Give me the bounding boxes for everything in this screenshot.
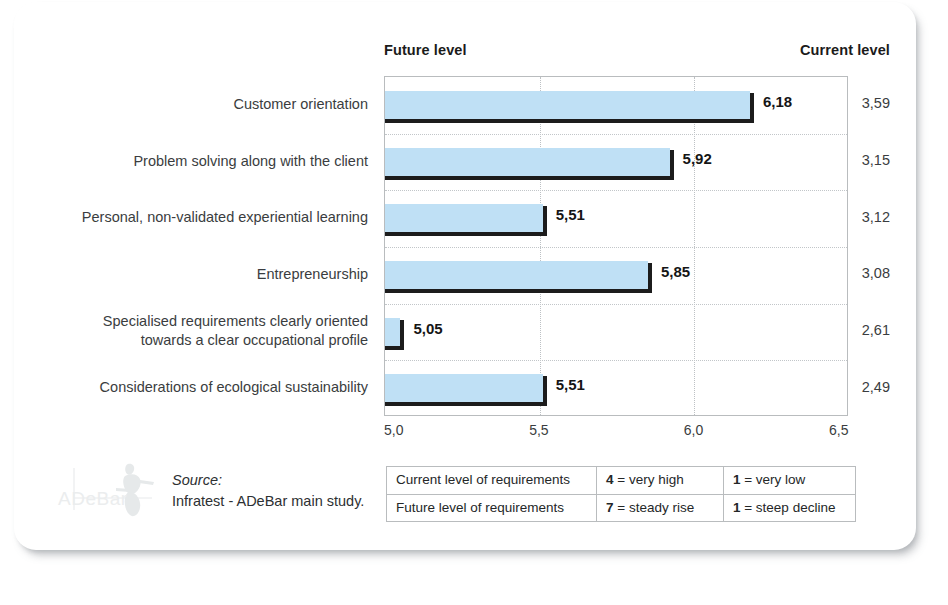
- legend-low-value: 1 = very low: [723, 467, 855, 495]
- legend-high-value: 4 = very high: [597, 467, 724, 495]
- bar-fill: [385, 374, 543, 402]
- bar-fill: [385, 318, 400, 346]
- bar-future-level: [385, 318, 400, 346]
- category-label: Entrepreneurship: [18, 265, 368, 284]
- bar-shadow-right: [750, 93, 754, 123]
- category-label: Personal, non-validated experiential lea…: [18, 208, 368, 227]
- bar-value-label: 5,05: [413, 321, 442, 336]
- bar-value-label: 5,85: [661, 264, 690, 279]
- legend-row-label: Future level of requirements: [387, 494, 597, 522]
- bar-value-label: 5,51: [556, 207, 585, 222]
- current-level-value: 3,15: [800, 152, 890, 168]
- chart-figure: Future level Current level 6,185,925,515…: [0, 0, 948, 605]
- x-axis-tick-label: 6,0: [684, 422, 703, 438]
- bar-value-label: 5,92: [683, 151, 712, 166]
- bar-future-level: [385, 374, 543, 402]
- bar-shadow-bottom: [385, 119, 750, 123]
- legend-row-label: Current level of requirements: [387, 467, 597, 495]
- legend-row: Current level of requirements4 = very hi…: [387, 467, 856, 495]
- bar-shadow-right: [670, 150, 674, 180]
- category-label: Problem solving along with the client: [18, 152, 368, 171]
- current-level-value: 3,12: [800, 209, 890, 225]
- bar-future-level: [385, 204, 543, 232]
- chart-row: 6,18: [385, 77, 847, 134]
- bar-fill: [385, 148, 670, 176]
- chart-row: 5,85: [385, 247, 847, 304]
- bar-future-level: [385, 261, 648, 289]
- chart-row: 5,51: [385, 360, 847, 417]
- bar-future-level: [385, 148, 670, 176]
- chart-row: 5,92: [385, 134, 847, 191]
- bar-fill: [385, 91, 750, 119]
- x-axis-tick-label: 6,5: [829, 422, 848, 438]
- bar-shadow-right: [400, 320, 404, 350]
- bar-value-label: 5,51: [556, 377, 585, 392]
- x-axis-tick-label: 5,5: [529, 422, 548, 438]
- category-label: Specialised requirements clearly oriente…: [18, 312, 368, 350]
- category-label: Considerations of ecological sustainabil…: [18, 378, 368, 397]
- bar-shadow-right: [648, 263, 652, 293]
- source-label: Source:: [172, 470, 364, 491]
- current-level-value: 2,49: [800, 379, 890, 395]
- bar-shadow-right: [543, 376, 547, 406]
- legend-high-value: 7 = steady rise: [597, 494, 724, 522]
- bar-fill: [385, 204, 543, 232]
- bar-shadow-bottom: [385, 232, 543, 236]
- category-label: Customer orientation: [18, 95, 368, 114]
- bar-shadow-bottom: [385, 346, 400, 350]
- source-text: Infratest - ADeBar main study.: [172, 491, 364, 512]
- current-level-header: Current level: [0, 42, 890, 58]
- legend-row: Future level of requirements7 = steady r…: [387, 494, 856, 522]
- bar-shadow-bottom: [385, 402, 543, 406]
- svg-text:ADeBar: ADeBar: [58, 488, 128, 509]
- chart-row: 5,05: [385, 304, 847, 361]
- chart-row: 5,51: [385, 190, 847, 247]
- current-level-value: 3,59: [800, 95, 890, 111]
- bar-fill: [385, 261, 648, 289]
- legend-low-value: 1 = steep decline: [723, 494, 855, 522]
- source-block: Source: Infratest - ADeBar main study.: [172, 470, 364, 512]
- legend-table: Current level of requirements4 = very hi…: [386, 466, 856, 522]
- current-level-value: 3,08: [800, 265, 890, 281]
- x-axis-tick-label: 5,0: [384, 422, 403, 438]
- adebar-logo: ADeBar: [56, 458, 174, 520]
- bar-shadow-right: [543, 206, 547, 236]
- plot-area: 6,185,925,515,855,055,51: [384, 76, 848, 416]
- bar-shadow-bottom: [385, 289, 648, 293]
- bar-future-level: [385, 91, 750, 119]
- bar-value-label: 6,18: [763, 94, 792, 109]
- current-level-value: 2,61: [800, 322, 890, 338]
- bar-shadow-bottom: [385, 176, 670, 180]
